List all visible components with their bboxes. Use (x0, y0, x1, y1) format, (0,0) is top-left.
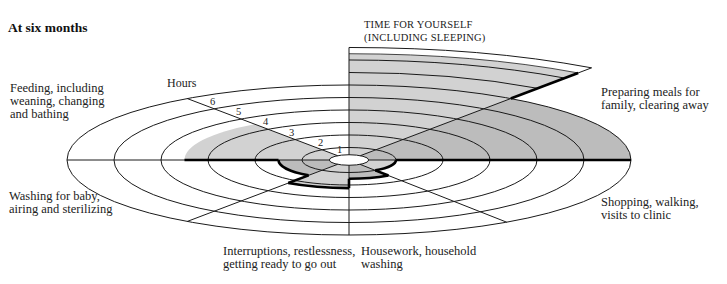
label-feeding: Feeding, including weaning, changing and… (10, 82, 104, 121)
label-interruptions: Interruptions, restlessness, getting rea… (223, 245, 355, 271)
label-line: washing (361, 258, 476, 271)
hole-ellipse (329, 155, 368, 166)
label-line: airing and sterilizing (9, 203, 112, 216)
tick-2: 2 (318, 137, 323, 148)
label-line: (INCLUDING SLEEPING) (364, 31, 486, 44)
label-washing-for-baby: Washing for baby, airing and sterilizing (9, 190, 112, 216)
tick-1: 1 (337, 144, 342, 155)
label-line: visits to clinic (601, 209, 699, 222)
tick-3: 3 (289, 127, 294, 138)
label-shopping: Shopping, walking, visits to clinic (601, 196, 699, 222)
label-line: TIME FOR YOURSELF (364, 18, 486, 31)
tick-6: 6 (210, 96, 215, 107)
hours-axis-label: Hours (167, 76, 196, 91)
center-hole (329, 155, 368, 166)
label-preparing-meals: Preparing meals for family, clearing awa… (601, 86, 709, 112)
label-housework: Housework, household washing (361, 245, 476, 271)
label-line: and bathing (10, 108, 104, 121)
label-line: getting ready to go out (223, 258, 355, 271)
radial-line (187, 164, 337, 221)
chart-title: At six months (8, 20, 88, 36)
label-time-for-yourself: TIME FOR YOURSELF (INCLUDING SLEEPING) (364, 18, 486, 44)
tick-4: 4 (263, 116, 268, 127)
tick-5: 5 (236, 106, 241, 117)
label-line: family, clearing away (601, 99, 709, 112)
